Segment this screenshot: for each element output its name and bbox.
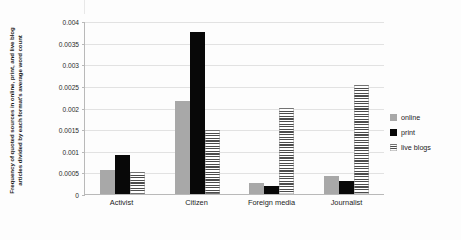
bar-group-activist — [100, 22, 145, 194]
bar-live-blogs-foreign-media — [279, 108, 294, 195]
y-axis-tick-label: 0.0005 — [33, 170, 79, 177]
bar-print-citizen — [190, 32, 205, 194]
x-axis-label-journalist: Journalist — [309, 198, 384, 207]
legend-item-print[interactable]: print — [390, 128, 431, 137]
legend: onlineprintlive blogs — [390, 113, 431, 152]
bar-print-journalist — [339, 181, 354, 194]
y-axis-tick-label: 0.002 — [33, 105, 79, 112]
y-axis-tick-label: 0.003 — [33, 62, 79, 69]
y-axis-tick-label: 0.001 — [33, 148, 79, 155]
legend-label: online — [401, 113, 420, 122]
y-axis-tick-label: 0.004 — [33, 19, 79, 26]
bar-online-citizen — [175, 101, 190, 194]
y-axis-tick-mark — [82, 195, 85, 196]
legend-swatch-live-blogs-icon — [390, 144, 397, 151]
bar-group-citizen — [175, 22, 220, 194]
y-axis-tick-label: 0.0015 — [33, 127, 79, 134]
bar-live-blogs-journalist — [354, 85, 369, 194]
y-axis-tick-label: 0.0025 — [33, 83, 79, 90]
bar-chart: Frequency of quoted sources in online, p… — [0, 0, 461, 240]
plot-area — [84, 22, 384, 195]
legend-label: print — [401, 128, 415, 137]
bar-live-blogs-citizen — [205, 130, 220, 194]
x-axis-label-activist: Activist — [84, 198, 159, 207]
bar-group-journalist — [324, 22, 369, 194]
bar-print-foreign-media — [264, 186, 279, 194]
bar-group-foreign-media — [249, 22, 294, 194]
y-axis-tick-label: 0.0035 — [33, 40, 79, 47]
legend-item-online[interactable]: online — [390, 113, 431, 122]
x-axis-tick-labels: ActivistCitizenForeign mediaJournalist — [84, 198, 384, 207]
legend-label: live blogs — [401, 143, 431, 152]
y-axis-tick-label: 0 — [33, 192, 79, 199]
x-axis-label-citizen: Citizen — [159, 198, 234, 207]
bar-live-blogs-activist — [130, 172, 145, 194]
bar-groups — [85, 22, 384, 194]
bar-print-activist — [115, 155, 130, 194]
x-axis-label-foreign-media: Foreign media — [234, 198, 309, 207]
bar-online-activist — [100, 170, 115, 194]
scan-artifact — [84, 0, 85, 14]
bar-online-journalist — [324, 176, 339, 194]
legend-swatch-print-icon — [390, 129, 397, 136]
legend-item-live-blogs[interactable]: live blogs — [390, 143, 431, 152]
legend-swatch-online-icon — [390, 114, 397, 121]
bar-online-foreign-media — [249, 183, 264, 194]
